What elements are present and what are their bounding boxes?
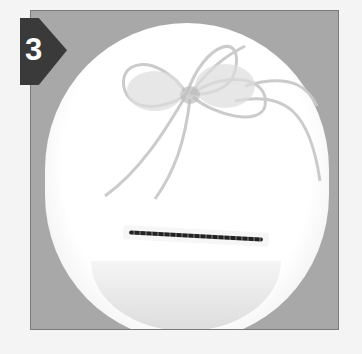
- ribbon-bow-icon: [95, 31, 325, 201]
- slot-stitching: [129, 230, 263, 241]
- step-photo: [30, 10, 339, 330]
- step-number: 3: [25, 30, 55, 70]
